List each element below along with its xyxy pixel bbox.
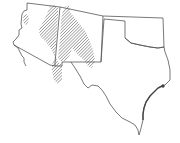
coastal-marker (162, 85, 164, 87)
range-area-east (58, 5, 95, 68)
state-borders (13, 3, 170, 135)
range-area-outlier (23, 14, 29, 25)
texas-coast (143, 85, 164, 120)
range-area-west (39, 5, 62, 84)
range-map (0, 0, 180, 143)
gulf-coastline (143, 86, 162, 120)
